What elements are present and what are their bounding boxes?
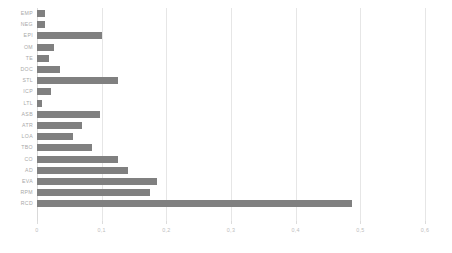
bar[interactable] <box>37 178 157 185</box>
category-label: TE <box>0 53 33 64</box>
bar[interactable] <box>37 21 45 28</box>
bar[interactable] <box>37 32 102 39</box>
bar-row[interactable] <box>37 131 425 142</box>
category-label: ICP <box>0 86 33 97</box>
bar-row[interactable] <box>37 75 425 86</box>
category-label: EMP <box>0 8 33 19</box>
x-tick-mark <box>37 221 38 224</box>
bar[interactable] <box>37 10 45 17</box>
category-label: EPI <box>0 30 33 41</box>
category-label: EVA <box>0 176 33 187</box>
bar-row[interactable] <box>37 109 425 120</box>
bar-row[interactable] <box>37 30 425 41</box>
bar-row[interactable] <box>37 120 425 131</box>
x-tick-label: 0 <box>35 227 38 233</box>
bar-row[interactable] <box>37 165 425 176</box>
x-tick-mark <box>296 221 297 224</box>
category-label: ATR <box>0 120 33 131</box>
category-label: AD <box>0 165 33 176</box>
y-axis-category-labels: EMPNEGEPIOMTEDOCSTLICPLTLASBATRLOATBOCOA… <box>0 8 33 221</box>
x-tick-mark <box>425 221 426 224</box>
category-label: NEG <box>0 19 33 30</box>
x-tick-label: 0,4 <box>291 227 299 233</box>
category-label: OM <box>0 42 33 53</box>
x-tick-label: 0,6 <box>421 227 429 233</box>
category-label: RCD <box>0 198 33 209</box>
bar-row[interactable] <box>37 53 425 64</box>
category-label: RPM <box>0 187 33 198</box>
bar-row[interactable] <box>37 154 425 165</box>
x-tick-mark <box>166 221 167 224</box>
bar[interactable] <box>37 44 54 51</box>
bar[interactable] <box>37 167 128 174</box>
bar-row[interactable] <box>37 86 425 97</box>
bar[interactable] <box>37 133 73 140</box>
gridline <box>425 8 426 221</box>
category-label: LTL <box>0 98 33 109</box>
category-label: LOA <box>0 131 33 142</box>
x-tick-label: 0,2 <box>162 227 170 233</box>
category-label: ASB <box>0 109 33 120</box>
bar[interactable] <box>37 66 60 73</box>
bar-row[interactable] <box>37 198 425 209</box>
bar-row[interactable] <box>37 8 425 19</box>
x-tick-label: 0,5 <box>356 227 364 233</box>
bar-row[interactable] <box>37 19 425 30</box>
bar[interactable] <box>37 55 49 62</box>
category-label: DOC <box>0 64 33 75</box>
bar-row[interactable] <box>37 42 425 53</box>
bar[interactable] <box>37 189 150 196</box>
bar[interactable] <box>37 122 82 129</box>
bar[interactable] <box>37 144 92 151</box>
bar-row[interactable] <box>37 98 425 109</box>
plot-area <box>37 8 425 221</box>
bar[interactable] <box>37 200 352 207</box>
x-axis-tick-labels: 00,10,20,30,40,50,6 <box>37 224 425 240</box>
bar-row[interactable] <box>37 187 425 198</box>
x-tick-label: 0,1 <box>97 227 105 233</box>
bar-row[interactable] <box>37 176 425 187</box>
bar-chart: EMPNEGEPIOMTEDOCSTLICPLTLASBATRLOATBOCOA… <box>0 0 452 253</box>
x-tick-label: 0,3 <box>227 227 235 233</box>
bar[interactable] <box>37 100 42 107</box>
category-label: STL <box>0 75 33 86</box>
x-tick-mark <box>231 221 232 224</box>
x-tick-mark <box>102 221 103 224</box>
category-label: TBO <box>0 142 33 153</box>
x-tick-mark <box>360 221 361 224</box>
category-label: CO <box>0 154 33 165</box>
bar-row[interactable] <box>37 142 425 153</box>
bar-row[interactable] <box>37 64 425 75</box>
bar[interactable] <box>37 77 118 84</box>
bar[interactable] <box>37 88 51 95</box>
bar[interactable] <box>37 156 118 163</box>
bar[interactable] <box>37 111 100 118</box>
